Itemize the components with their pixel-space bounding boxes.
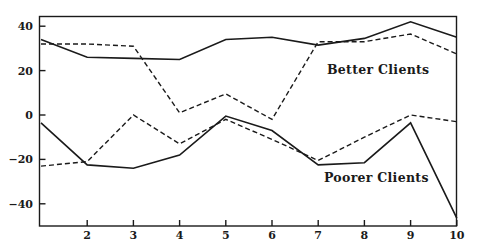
x-tick-label: 4: [176, 229, 184, 242]
y-tick-label: 20: [18, 65, 34, 78]
x-tick-label: 7: [314, 229, 322, 242]
x-tick-label: 9: [407, 229, 415, 242]
line-chart: 40200−20−40 2345678910 Better Clients Po…: [0, 0, 477, 248]
better-clients-label: Better Clients: [327, 62, 429, 77]
poorer-clients-label: Poorer Clients: [324, 170, 429, 185]
series-layer: [41, 22, 457, 218]
y-tick-label: 0: [25, 109, 33, 122]
poorer-clients-solid-line: [41, 116, 457, 218]
x-tick-label: 3: [130, 229, 138, 242]
x-tick-label: 6: [268, 229, 276, 242]
better-clients-solid-line: [41, 22, 457, 60]
y-tick-label: −20: [8, 153, 33, 166]
x-tick-label: 5: [222, 229, 230, 242]
x-tick-label: 8: [361, 229, 369, 242]
y-tick-label: −40: [8, 198, 33, 211]
x-tick-label: 10: [449, 229, 465, 242]
x-axis: 2345678910: [83, 220, 464, 242]
plot-frame: [40, 17, 457, 227]
y-tick-label: 40: [18, 20, 34, 33]
x-tick-label: 2: [83, 229, 91, 242]
